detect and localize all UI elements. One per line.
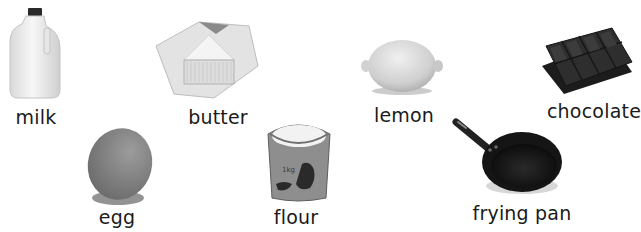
item-label: egg [99, 206, 135, 228]
lemon-icon [360, 36, 444, 98]
item-label: flour [274, 206, 318, 228]
chocolate-bar-icon [540, 26, 634, 94]
frying-pan-icon [452, 116, 568, 200]
item-label: butter [188, 106, 248, 128]
item-label: frying pan [473, 202, 572, 224]
item-label: milk [16, 106, 57, 128]
milk-jug-icon [6, 4, 64, 100]
svg-text:1kg: 1kg [282, 166, 295, 174]
butter-block-icon [154, 20, 260, 100]
item-label: lemon [374, 104, 434, 126]
egg-icon [82, 126, 154, 208]
flour-sack-icon: 1kg [264, 118, 334, 204]
